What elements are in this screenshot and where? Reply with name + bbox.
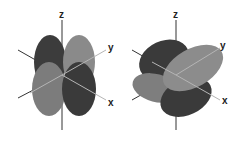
orbital-right: z y x [129,9,228,130]
z-axis-label: z [173,9,178,20]
x-axis-label: x [108,97,114,108]
orbital-left: z y x [18,9,114,130]
x-axis-label: x [222,95,228,106]
y-axis-label: y [220,40,226,51]
orbital-diagram: z y x z y x [0,0,228,147]
y-axis-label: y [108,42,114,53]
z-axis-label: z [59,9,64,20]
lobe-lower-right [62,62,96,116]
